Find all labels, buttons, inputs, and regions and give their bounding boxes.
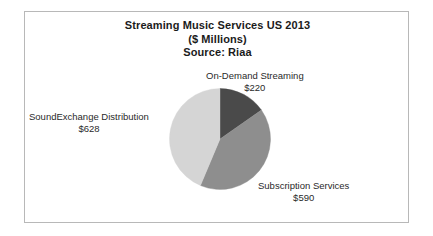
slice-label-on-demand-streaming: On-Demand Streaming xyxy=(206,70,304,82)
pie-chart xyxy=(169,88,271,190)
chart-frame: Streaming Music Services US 2013 ($ Mill… xyxy=(24,11,409,223)
slice-value-on-demand-streaming: $220 xyxy=(206,82,304,94)
slice-value-soundexchange-distribution: $628 xyxy=(29,123,149,135)
slice-callout-subscription-services: Subscription Services $590 xyxy=(258,180,349,204)
chart-title-block: Streaming Music Services US 2013 ($ Mill… xyxy=(25,19,410,60)
pie-slice-group xyxy=(170,89,271,190)
slice-callout-soundexchange-distribution: SoundExchange Distribution $628 xyxy=(29,111,149,135)
slice-value-subscription-services: $590 xyxy=(258,192,349,204)
chart-title: Streaming Music Services US 2013 xyxy=(25,19,410,33)
chart-source: Source: Riaa xyxy=(25,46,410,60)
slice-label-subscription-services: Subscription Services xyxy=(258,180,349,192)
slice-callout-on-demand-streaming: On-Demand Streaming $220 xyxy=(206,70,304,94)
chart-subtitle: ($ Millions) xyxy=(25,33,410,47)
pie-svg xyxy=(169,88,271,190)
slice-label-soundexchange-distribution: SoundExchange Distribution xyxy=(29,111,149,123)
